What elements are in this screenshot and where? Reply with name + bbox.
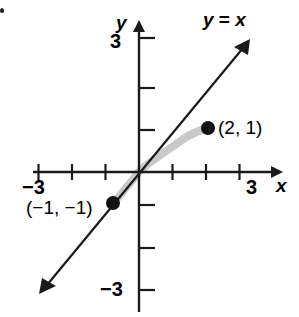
y-tick-label-bottom: −3 <box>100 279 123 299</box>
gray-curve <box>113 128 208 203</box>
x-axis-label: x <box>276 176 287 195</box>
coordinate-plane <box>0 0 299 317</box>
graph-figure: y x 3 −3 −3 3 (2, 1) (−1, −1) y = x <box>0 0 299 317</box>
x-tick-label-left: −3 <box>22 177 45 197</box>
point-label-upper-right: (2, 1) <box>218 118 262 137</box>
identity-line-label: y = x <box>203 10 246 29</box>
identity-line-label-lhs: y <box>203 9 214 30</box>
identity-line-label-rhs: x <box>235 9 246 30</box>
identity-line-arrow-lower <box>39 278 56 294</box>
data-point-lower-left <box>106 196 120 210</box>
x-tick-label-right: 3 <box>246 177 257 197</box>
identity-line <box>47 48 243 285</box>
data-point-upper-right <box>201 121 215 135</box>
identity-line-label-eq: = <box>214 9 236 30</box>
point-label-lower-left: (−1, −1) <box>26 198 93 217</box>
y-axis-arrowhead <box>133 20 145 32</box>
identity-line-arrow-upper <box>234 39 250 55</box>
y-tick-label-top: 3 <box>110 31 121 51</box>
